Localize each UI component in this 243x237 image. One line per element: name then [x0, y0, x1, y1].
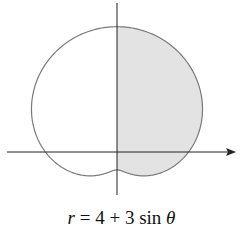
equation-rhs: = 4 + 3 sin: [75, 207, 166, 228]
shaded-region: [117, 27, 203, 176]
equation-caption: r = 4 + 3 sin θ: [0, 207, 243, 229]
equation-r: r: [68, 207, 75, 228]
polar-plot: [0, 0, 243, 237]
equation-theta: θ: [166, 207, 175, 228]
